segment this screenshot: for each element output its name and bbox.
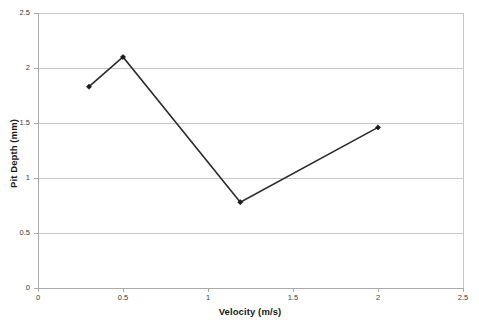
x-axis-tick-label: 0 [23,294,53,302]
y-axis-tick-label: 0.5 [4,229,30,237]
chart-container: 00.511.522.5 00.511.522.5 Pit Depth (mm)… [0,0,479,324]
plot-background [38,13,463,288]
x-axis-tick-label: 0.5 [108,294,138,302]
y-axis-tick-label: 2.5 [4,9,30,17]
x-axis-tick-label: 1 [193,294,223,302]
x-axis-tick-label: 1.5 [278,294,308,302]
x-axis-title: Velocity (m/s) [140,306,360,317]
x-axis-tick-label: 2.5 [448,294,478,302]
chart-plot-area [0,0,479,324]
y-axis-title: Pit Depth (mm) [8,99,19,209]
y-axis-tick-label: 2 [4,64,30,72]
x-axis-tick-label: 2 [363,294,393,302]
y-axis-tick-label: 0 [4,284,30,292]
